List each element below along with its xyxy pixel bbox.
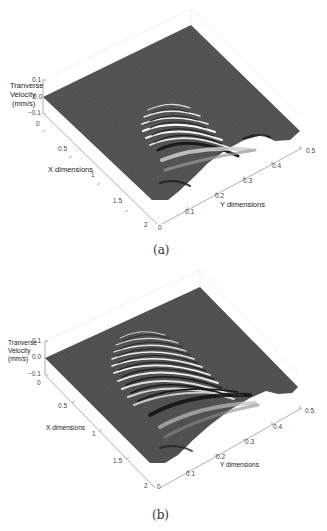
x-tick: 2 [144, 222, 148, 229]
x-tick: 0 [37, 380, 41, 387]
z-tick: 0.0 [33, 94, 42, 101]
x-tick: 0.5 [58, 146, 67, 153]
x-tick: 0.5 [58, 403, 67, 410]
surface-plot-a [0, 0, 327, 265]
z-axis-label-line3: (mm/s) [8, 355, 28, 363]
x-tick: 2 [144, 483, 148, 490]
x-tick: 0 [36, 121, 40, 128]
y-tick: 0.2 [216, 454, 225, 461]
y-tick: 0.4 [273, 424, 282, 431]
y-axis-label: Y dimensions [220, 201, 265, 209]
y-tick: 0.1 [185, 209, 194, 216]
surface-plot-b [0, 265, 327, 531]
x-tick: 1.5 [113, 198, 122, 205]
y-tick: 0.5 [306, 148, 315, 155]
y-tick: 0.5 [305, 408, 314, 415]
x-tick: 1.5 [113, 458, 122, 465]
x-axis-label: X dimensions [48, 166, 93, 174]
z-tick: −0.1 [28, 110, 41, 117]
z-axis-label-line3: (mm/s) [12, 99, 35, 108]
x-tick: 1 [92, 431, 96, 438]
figure-a: Tranverse Velocity (mm/s) 0.1 0.0 −0.1 0… [0, 0, 327, 265]
figure-b: Tranverse Velocity (mm/s) 0.1 0.0 −0.1 0… [0, 265, 327, 531]
z-tick: 0.1 [32, 77, 41, 84]
figure-caption-b: (b) [152, 508, 169, 522]
z-tick: 0.0 [32, 354, 41, 361]
z-tick: 0.1 [32, 338, 41, 345]
figure-caption-a: (a) [153, 243, 170, 257]
y-tick: 0.3 [243, 178, 252, 185]
y-tick: 0.2 [215, 193, 224, 200]
surface-mesh [45, 287, 298, 463]
y-tick: 0.4 [272, 163, 281, 170]
y-tick: 0 [157, 484, 161, 491]
y-tick: 0.3 [245, 439, 254, 446]
y-axis-label: Y dimensions [220, 462, 259, 469]
z-axis-label-line2: Velocity [8, 347, 30, 355]
y-tick: 0 [158, 225, 162, 232]
z-tick: −0.1 [28, 371, 41, 378]
z-axis-label-line2: Velocity [10, 90, 36, 99]
x-axis-label: X dimensions [46, 425, 85, 432]
y-tick: 0.1 [186, 471, 195, 478]
